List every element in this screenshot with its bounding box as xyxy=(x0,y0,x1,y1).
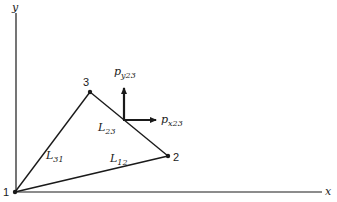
edge-label-l12-sub: 12 xyxy=(117,158,127,167)
x-axis-label: x xyxy=(325,185,332,198)
force-x-main: p xyxy=(161,113,168,126)
force-y-main: p xyxy=(114,65,121,78)
edge-label-l31-main: L xyxy=(45,149,53,162)
force-x-label: px23 xyxy=(161,113,183,128)
force-x-sub: x23 xyxy=(168,119,183,128)
edge-label-l23: L23 xyxy=(97,121,116,136)
edge-label-l23-sub: 23 xyxy=(104,127,115,136)
node-2-label: 2 xyxy=(173,151,179,163)
node-2 xyxy=(166,154,170,158)
triangle-element-diagram: y x 1 2 3 py23 px23 L23 L31 L12 xyxy=(0,0,337,202)
node-3-label: 3 xyxy=(83,76,89,88)
force-y-sub: y23 xyxy=(120,71,136,80)
edge-label-l31: L31 xyxy=(45,149,64,164)
y-axis-label: y xyxy=(11,1,19,14)
edge-label-l12: L12 xyxy=(109,152,128,167)
edge-label-l23-main: L xyxy=(97,121,105,134)
edge-label-l31-sub: 31 xyxy=(53,155,63,164)
force-y-label: py23 xyxy=(114,65,136,80)
node-3 xyxy=(88,90,92,94)
node-1-label: 1 xyxy=(3,186,9,198)
edge-label-l12-main: L xyxy=(109,152,117,165)
node-1 xyxy=(13,190,17,194)
